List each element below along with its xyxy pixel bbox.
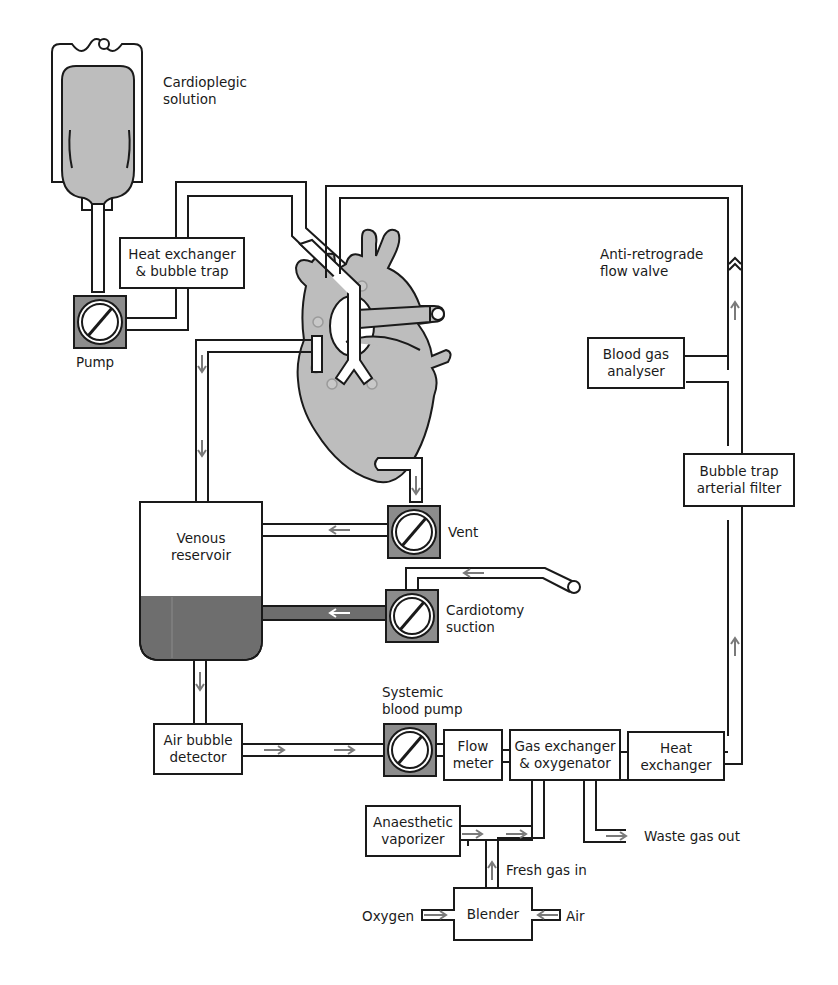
heart <box>296 230 451 502</box>
flow-meter-label: Flow meter <box>444 738 502 772</box>
blood-gas-analyser-label: Blood gas analyser <box>588 346 684 380</box>
waste-gas-label: Waste gas out <box>644 828 740 845</box>
vent-pump <box>388 506 440 558</box>
venous-reservoir-label: Venous reservoir <box>144 530 258 564</box>
venous-reservoir <box>140 502 262 660</box>
anti-retrograde-valve-label: Anti-retrograde flow valve <box>600 246 703 280</box>
gas-exchanger-label: Gas exchanger & oxygenator <box>510 738 620 772</box>
bubble-trap-filter-label: Bubble trap arterial filter <box>684 463 794 497</box>
cardiotomy-suction-label: Cardiotomy suction <box>446 602 524 636</box>
cardiotomy-pump <box>386 590 438 642</box>
systemic-pump <box>384 724 436 776</box>
anaesthetic-vaporizer-label: Anaesthetic vaporizer <box>366 814 460 848</box>
cardioplegia-pump <box>74 296 126 348</box>
cardioplegic-solution-label: Cardioplegic solution <box>163 74 247 108</box>
fresh-gas-label: Fresh gas in <box>506 862 587 879</box>
heat-exchanger-label: Heat exchanger <box>628 740 724 774</box>
pump-label: Pump <box>76 354 114 371</box>
air-label: Air <box>566 908 585 925</box>
air-bubble-detector-label: Air bubble detector <box>154 732 242 766</box>
oxygen-label: Oxygen <box>362 908 414 925</box>
vent-label: Vent <box>448 524 478 541</box>
blender-label: Blender <box>454 906 532 923</box>
heat-exchanger-bubble-trap-label: Heat exchanger & bubble trap <box>122 246 242 280</box>
systemic-pump-label: Systemic blood pump <box>382 684 463 718</box>
